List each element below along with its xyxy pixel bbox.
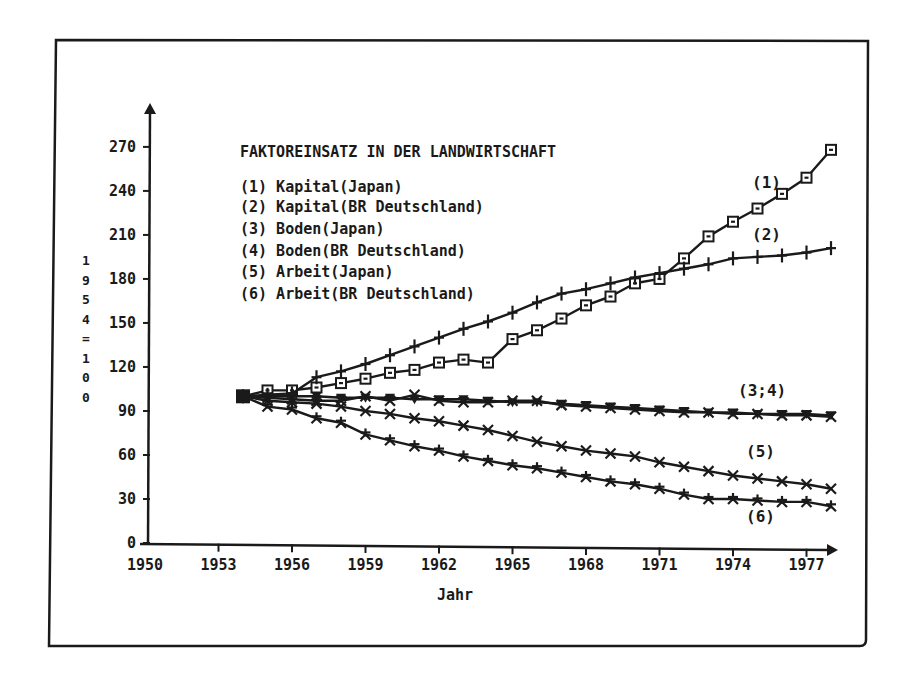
legend-item-3: (3) Boden(Japan) bbox=[240, 220, 385, 238]
y-tick-label: 60 bbox=[118, 446, 136, 464]
series-label-5: (5) bbox=[746, 442, 775, 461]
svg-text:1: 1 bbox=[82, 351, 90, 366]
svg-text:9: 9 bbox=[82, 273, 90, 288]
x-tick-label: 1971 bbox=[641, 556, 677, 574]
y-tick-label: 240 bbox=[109, 182, 136, 200]
x-axis-arrow-icon bbox=[827, 544, 838, 556]
svg-text:5: 5 bbox=[82, 292, 90, 307]
x-tick-label: 1977 bbox=[788, 556, 824, 574]
y-tick-label: 270 bbox=[109, 138, 136, 156]
y-tick-label: 30 bbox=[118, 490, 136, 508]
legend-item-6: (6) Arbeit(BR Deutschland) bbox=[240, 285, 475, 303]
x-axis-label: Jahr bbox=[437, 586, 473, 604]
x-tick-label: 1950 bbox=[127, 556, 163, 574]
x-tick-label: 1968 bbox=[568, 556, 604, 574]
chart-figure: 0306090120150180210240270 19501953195619… bbox=[0, 0, 903, 680]
y-axis-arrow-icon bbox=[144, 103, 156, 114]
series-label-1: (1) bbox=[752, 173, 781, 192]
y-tick-label: 90 bbox=[118, 402, 136, 420]
chart-title: FAKTOREINSATZ IN DER LANDWIRTSCHAFT bbox=[240, 143, 556, 161]
y-tick-label: 120 bbox=[109, 358, 136, 376]
legend: (1) Kapital(Japan) (2) Kapital(BR Deutsc… bbox=[240, 178, 484, 303]
series-label-2: (2) bbox=[752, 225, 781, 244]
svg-text:=: = bbox=[82, 331, 90, 346]
x-tick-label: 1974 bbox=[715, 556, 751, 574]
x-tick-label: 1956 bbox=[274, 556, 310, 574]
svg-text:0: 0 bbox=[82, 370, 90, 385]
svg-text:0: 0 bbox=[82, 390, 90, 405]
legend-item-1: (1) Kapital(Japan) bbox=[240, 178, 403, 196]
svg-text:4: 4 bbox=[82, 312, 90, 327]
x-tick-label: 1953 bbox=[200, 556, 236, 574]
svg-text:1: 1 bbox=[82, 253, 90, 268]
y-axis-ticks: 0306090120150180210240270 bbox=[109, 138, 150, 552]
x-tick-label: 1962 bbox=[421, 556, 457, 574]
y-axis-label: 1954=100 bbox=[82, 253, 90, 405]
origin-marker bbox=[236, 389, 250, 403]
y-tick-label: 150 bbox=[109, 314, 136, 332]
series-label-6: (6) bbox=[746, 507, 775, 526]
legend-item-5: (5) Arbeit(Japan) bbox=[240, 263, 394, 281]
y-tick-label: 180 bbox=[109, 270, 136, 288]
x-tick-label: 1959 bbox=[347, 556, 383, 574]
series-label-3-4: (3;4) bbox=[738, 381, 786, 400]
y-tick-label: 210 bbox=[109, 226, 136, 244]
legend-item-2: (2) Kapital(BR Deutschland) bbox=[240, 198, 484, 216]
y-tick-label: 0 bbox=[127, 534, 136, 552]
legend-item-4: (4) Boden(BR Deutschland) bbox=[240, 242, 466, 260]
x-tick-label: 1965 bbox=[494, 556, 530, 574]
y-axis bbox=[144, 103, 156, 545]
